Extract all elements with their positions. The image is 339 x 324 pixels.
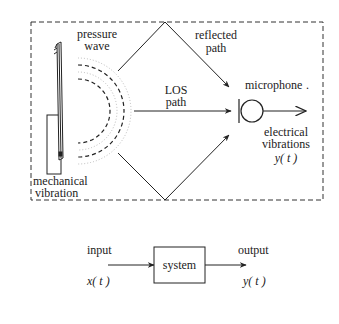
los-path-label-2: path bbox=[166, 95, 187, 109]
guitar-icon bbox=[47, 42, 63, 174]
pressure-wave-arcs bbox=[78, 58, 131, 164]
reflected-path-label-2: path bbox=[206, 41, 227, 55]
output-label: output bbox=[238, 243, 269, 257]
input-signal-label: x( t ) bbox=[86, 274, 110, 288]
system-label: system bbox=[163, 258, 197, 272]
pressure-wave-label-2: wave bbox=[84, 39, 109, 53]
microphone-dot: . bbox=[306, 78, 309, 92]
diagram-canvas: pressure wave reflected path LOS path mi… bbox=[0, 0, 339, 324]
mechanical-label-2: vibration bbox=[35, 186, 78, 200]
electrical-signal-label: y( t ) bbox=[274, 151, 298, 165]
input-label: input bbox=[87, 243, 112, 257]
output-signal-label: y( t ) bbox=[242, 274, 266, 288]
reflected-path-label-1: reflected bbox=[195, 28, 237, 42]
microphone-label: microphone bbox=[245, 78, 302, 92]
electrical-label-2: vibrations bbox=[262, 137, 310, 151]
microphone-icon bbox=[239, 99, 263, 123]
reflected-path-bottom bbox=[118, 135, 229, 200]
